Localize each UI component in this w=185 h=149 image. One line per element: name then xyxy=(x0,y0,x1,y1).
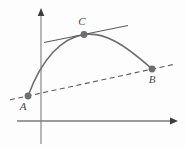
point-B-label: B xyxy=(149,73,156,85)
parabolic-curve xyxy=(28,34,152,96)
point-C-marker xyxy=(81,31,88,38)
math-figure-svg: A C B xyxy=(0,0,185,149)
point-C-label: C xyxy=(78,15,86,27)
x-axis-arrowhead-icon xyxy=(170,118,178,125)
point-A-marker xyxy=(25,93,32,100)
point-B-marker xyxy=(149,66,156,73)
math-figure-container: A C B xyxy=(0,0,185,149)
point-A-label: A xyxy=(19,100,27,112)
y-axis-group xyxy=(38,8,45,144)
point-B-group: B xyxy=(149,66,156,85)
point-C-group: C xyxy=(78,15,87,38)
y-axis-arrowhead-icon xyxy=(38,8,45,16)
point-A-group: A xyxy=(19,93,32,112)
